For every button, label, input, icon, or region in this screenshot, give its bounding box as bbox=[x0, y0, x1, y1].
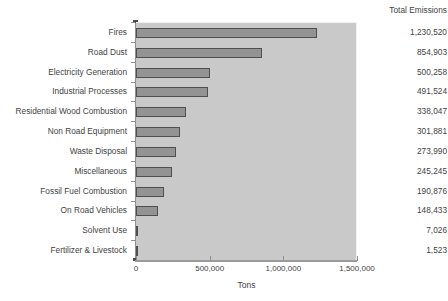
category-label: Residential Wood Combustion bbox=[16, 105, 127, 117]
x-axis-tick bbox=[210, 256, 211, 261]
total-emissions-value: 301,881 bbox=[417, 125, 447, 137]
bar bbox=[136, 87, 208, 97]
bar bbox=[136, 48, 262, 58]
category-label: Fertilizer & Livestock bbox=[50, 244, 127, 256]
total-emissions-value: 338,047 bbox=[417, 105, 447, 117]
bar bbox=[136, 68, 210, 78]
y-axis-tick bbox=[131, 220, 135, 221]
total-emissions-value: 1,523 bbox=[426, 244, 447, 256]
category-axis: FiresRoad DustElectricity GenerationIndu… bbox=[0, 22, 131, 254]
total-emissions-value: 854,903 bbox=[417, 46, 447, 58]
bar bbox=[136, 28, 317, 38]
x-axis-tick bbox=[357, 256, 358, 261]
bar bbox=[136, 226, 138, 236]
category-label: Electricity Generation bbox=[48, 66, 127, 78]
bar bbox=[136, 147, 176, 157]
x-axis-line bbox=[135, 260, 357, 262]
category-label: Road Dust bbox=[88, 46, 127, 58]
total-emissions-value: 7,026 bbox=[426, 224, 447, 236]
emissions-bar-chart: FiresRoad DustElectricity GenerationIndu… bbox=[0, 0, 448, 301]
x-axis-tick-label: 0 bbox=[134, 264, 138, 274]
x-axis-tick-label: 500,000 bbox=[195, 264, 224, 274]
y-axis-tick bbox=[131, 181, 135, 182]
y-axis-tick bbox=[131, 82, 135, 83]
y-axis-tick bbox=[131, 121, 135, 122]
bar bbox=[136, 187, 164, 197]
category-label: Fossil Fuel Combustion bbox=[40, 185, 127, 197]
category-label: Solvent Use bbox=[82, 224, 127, 236]
total-emissions-value: 148,433 bbox=[417, 204, 447, 216]
bar bbox=[136, 246, 138, 256]
category-label: Waste Disposal bbox=[70, 145, 127, 157]
y-axis-tick bbox=[131, 240, 135, 241]
x-axis-title: Tons bbox=[136, 280, 357, 290]
bar bbox=[136, 127, 180, 137]
y-axis-tick bbox=[131, 141, 135, 142]
category-label: On Road Vehicles bbox=[61, 204, 127, 216]
x-axis-tick bbox=[283, 256, 284, 261]
y-axis-tick bbox=[131, 101, 135, 102]
y-axis-tick bbox=[131, 22, 135, 23]
y-axis-tick bbox=[131, 161, 135, 162]
y-axis-tick bbox=[131, 42, 135, 43]
category-label: Non Road Equipment bbox=[48, 125, 127, 137]
y-axis-tick bbox=[131, 62, 135, 63]
bar bbox=[136, 206, 158, 216]
category-label: Industrial Processes bbox=[52, 85, 127, 97]
y-axis-tick bbox=[131, 201, 135, 202]
total-emissions-header: Total Emissions bbox=[389, 4, 447, 16]
total-emissions-value: 273,990 bbox=[417, 145, 447, 157]
category-label: Fires bbox=[109, 26, 127, 38]
total-emissions-value: 1,230,520 bbox=[410, 26, 447, 38]
x-axis-tick-label: 1,000,000 bbox=[266, 264, 302, 274]
total-emissions-column: Total Emissions 1,230,520854,903500,2584… bbox=[372, 4, 448, 264]
bar bbox=[136, 167, 172, 177]
x-axis-tick-label: 1,500,000 bbox=[339, 264, 375, 274]
plot-area bbox=[136, 22, 357, 260]
total-emissions-value: 500,258 bbox=[417, 66, 447, 78]
category-label: Miscellaneous bbox=[74, 165, 127, 177]
bars-layer bbox=[136, 23, 356, 260]
total-emissions-value: 190,876 bbox=[417, 185, 447, 197]
total-emissions-value: 491,524 bbox=[417, 85, 447, 97]
total-emissions-value: 245,245 bbox=[417, 165, 447, 177]
x-axis-tick bbox=[136, 256, 137, 261]
bar bbox=[136, 107, 186, 117]
